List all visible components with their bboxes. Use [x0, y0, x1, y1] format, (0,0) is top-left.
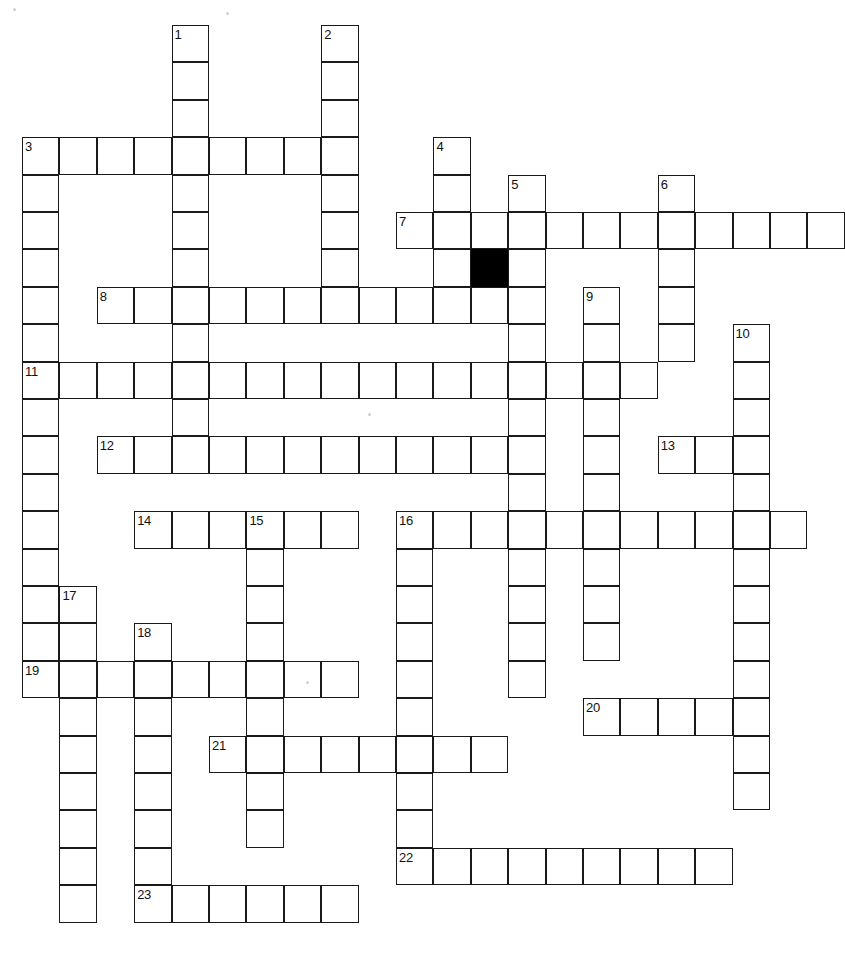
crossword-cell[interactable] [583, 324, 620, 361]
crossword-cell[interactable] [172, 661, 209, 698]
crossword-cell[interactable] [471, 736, 508, 773]
crossword-cell[interactable] [733, 511, 770, 548]
crossword-cell[interactable] [134, 137, 171, 174]
crossword-cell[interactable] [321, 436, 358, 473]
crossword-cell[interactable] [433, 287, 470, 324]
crossword-cell[interactable] [396, 436, 433, 473]
crossword-cell[interactable] [209, 885, 246, 922]
crossword-cell[interactable] [22, 249, 59, 286]
crossword-cell[interactable] [284, 436, 321, 473]
crossword-cell[interactable] [508, 549, 545, 586]
crossword-cell[interactable] [321, 511, 358, 548]
crossword-cell[interactable] [471, 362, 508, 399]
crossword-cell[interactable] [583, 549, 620, 586]
crossword-cell[interactable] [134, 362, 171, 399]
crossword-cell[interactable] [658, 249, 695, 286]
crossword-cell[interactable] [321, 249, 358, 286]
crossword-cell[interactable] [583, 511, 620, 548]
crossword-cell[interactable] [246, 661, 283, 698]
crossword-cell[interactable] [172, 100, 209, 137]
crossword-cell[interactable] [359, 287, 396, 324]
crossword-cell[interactable] [695, 436, 732, 473]
crossword-cell[interactable] [733, 436, 770, 473]
crossword-cell[interactable] [508, 399, 545, 436]
crossword-cell[interactable] [396, 586, 433, 623]
crossword-cell[interactable] [359, 362, 396, 399]
crossword-cell[interactable] [583, 399, 620, 436]
crossword-cell[interactable] [59, 698, 96, 735]
crossword-cell[interactable] [59, 885, 96, 922]
crossword-cell[interactable] [321, 137, 358, 174]
crossword-cell[interactable] [433, 212, 470, 249]
crossword-cell[interactable] [433, 175, 470, 212]
crossword-cell[interactable] [471, 436, 508, 473]
crossword-cell[interactable] [733, 736, 770, 773]
crossword-cell[interactable] [172, 362, 209, 399]
crossword-cell[interactable] [508, 249, 545, 286]
crossword-cell[interactable] [733, 698, 770, 735]
crossword-cell[interactable] [22, 474, 59, 511]
crossword-cell[interactable] [658, 848, 695, 885]
crossword-cell[interactable] [583, 474, 620, 511]
crossword-cell[interactable] [733, 623, 770, 660]
crossword-cell[interactable] [172, 137, 209, 174]
crossword-cell[interactable] [321, 212, 358, 249]
crossword-cell[interactable] [134, 848, 171, 885]
crossword-cell[interactable] [59, 848, 96, 885]
crossword-cell[interactable] [172, 287, 209, 324]
crossword-cell[interactable] [433, 436, 470, 473]
crossword-cell[interactable] [396, 773, 433, 810]
crossword-cell[interactable] [396, 810, 433, 847]
crossword-cell[interactable] [695, 212, 732, 249]
crossword-cell[interactable] [59, 137, 96, 174]
crossword-cell[interactable] [546, 511, 583, 548]
crossword-cell[interactable] [172, 249, 209, 286]
crossword-cell[interactable] [733, 661, 770, 698]
crossword-cell[interactable] [22, 511, 59, 548]
crossword-cell[interactable] [508, 362, 545, 399]
crossword-cell[interactable] [22, 212, 59, 249]
crossword-cell[interactable] [134, 287, 171, 324]
crossword-cell[interactable] [620, 212, 657, 249]
crossword-cell[interactable] [172, 436, 209, 473]
crossword-cell[interactable] [620, 698, 657, 735]
crossword-cell[interactable] [246, 586, 283, 623]
crossword-cell[interactable] [546, 212, 583, 249]
crossword-cell[interactable] [246, 810, 283, 847]
crossword-cell[interactable] [770, 511, 807, 548]
crossword-cell[interactable] [209, 511, 246, 548]
crossword-cell[interactable] [59, 623, 96, 660]
crossword-cell[interactable] [733, 586, 770, 623]
crossword-cell[interactable] [658, 212, 695, 249]
crossword-cell[interactable] [134, 661, 171, 698]
crossword-cell[interactable] [733, 399, 770, 436]
crossword-cell[interactable] [246, 623, 283, 660]
crossword-cell[interactable] [22, 399, 59, 436]
crossword-cell[interactable] [508, 324, 545, 361]
crossword-cell[interactable] [733, 212, 770, 249]
crossword-cell[interactable] [22, 324, 59, 361]
crossword-cell[interactable] [508, 436, 545, 473]
crossword-cell[interactable] [22, 175, 59, 212]
crossword-cell[interactable] [246, 287, 283, 324]
crossword-cell[interactable] [508, 511, 545, 548]
crossword-cell[interactable] [59, 362, 96, 399]
crossword-cell[interactable] [134, 436, 171, 473]
crossword-cell[interactable] [209, 362, 246, 399]
crossword-cell[interactable] [22, 287, 59, 324]
crossword-cell[interactable] [246, 773, 283, 810]
crossword-cell[interactable] [658, 698, 695, 735]
crossword-cell[interactable] [97, 661, 134, 698]
crossword-cell[interactable] [246, 137, 283, 174]
crossword-cell[interactable] [396, 736, 433, 773]
crossword-cell[interactable] [59, 810, 96, 847]
crossword-cell[interactable] [246, 362, 283, 399]
crossword-cell[interactable] [433, 249, 470, 286]
crossword-cell[interactable] [583, 436, 620, 473]
crossword-cell[interactable] [433, 736, 470, 773]
crossword-cell[interactable] [583, 586, 620, 623]
crossword-cell[interactable] [134, 810, 171, 847]
crossword-cell[interactable] [433, 362, 470, 399]
crossword-cell[interactable] [22, 436, 59, 473]
crossword-cell[interactable] [583, 848, 620, 885]
